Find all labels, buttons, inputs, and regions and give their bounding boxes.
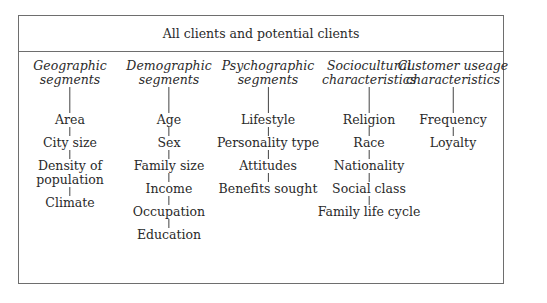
segment-item: Sex <box>157 136 180 150</box>
segment-item: Lifestyle <box>241 113 295 127</box>
column-title: Psychographic segments <box>222 59 315 87</box>
column-title: Geographic segments <box>33 59 106 87</box>
segment-item: Religion <box>343 113 395 127</box>
segment-item: Area <box>55 113 85 127</box>
connector-line <box>268 87 269 113</box>
segment-item: City size <box>43 136 97 150</box>
segment-item: Nationality <box>334 159 405 173</box>
root-node: All clients and potential clients <box>19 16 503 52</box>
connector-line <box>369 87 370 113</box>
column-psychographic: Psychographic segments Lifestyle Persona… <box>217 59 319 196</box>
diagram-frame: All clients and potential clients Geogra… <box>18 15 504 284</box>
connector-line <box>169 87 170 113</box>
segment-item: Income <box>146 182 193 196</box>
column-title: Demographic segments <box>126 59 211 87</box>
segment-item: Benefits sought <box>219 182 318 196</box>
segment-item: Density of population <box>36 159 104 187</box>
segment-item: Attitudes <box>239 159 297 173</box>
connector-line <box>69 87 70 113</box>
segment-item: Frequency <box>419 113 487 127</box>
connector-line <box>453 87 454 113</box>
segment-item: Age <box>157 113 181 127</box>
segment-item: Family life cycle <box>318 205 421 219</box>
column-title: Customer useage characteristics <box>398 59 509 87</box>
column-demographic: Demographic segments Age Sex Family size… <box>126 59 211 242</box>
segment-item: Occupation <box>133 205 205 219</box>
segment-item: Social class <box>332 182 406 196</box>
segment-item: Personality type <box>217 136 319 150</box>
root-title: All clients and potential clients <box>163 26 360 41</box>
column-geographic: Geographic segments Area City size Densi… <box>33 59 106 210</box>
segment-item: Education <box>137 228 201 242</box>
segment-item: Climate <box>45 196 94 210</box>
segment-item: Race <box>353 136 385 150</box>
segment-item: Loyalty <box>430 136 476 150</box>
column-customer-useage: Customer useage characteristics Frequenc… <box>398 59 509 150</box>
segment-item: Family size <box>134 159 205 173</box>
